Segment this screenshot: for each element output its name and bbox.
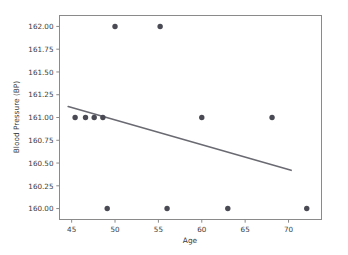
y-tick-label: 161.25	[28, 90, 53, 99]
data-point-marker	[100, 115, 105, 120]
y-tick-label: 161.50	[28, 68, 54, 77]
data-point-marker	[199, 115, 204, 120]
x-tick-label: 65	[241, 225, 250, 234]
y-tick-label: 160.25	[28, 182, 53, 191]
x-axis-label: Age	[183, 236, 198, 245]
data-point-marker	[269, 115, 274, 120]
data-point-marker	[304, 206, 309, 211]
data-point-marker	[112, 24, 117, 29]
y-tick-label: 160.50	[28, 159, 54, 168]
x-tick-label: 60	[197, 225, 207, 234]
x-tick-label: 45	[67, 225, 76, 234]
data-point-marker	[225, 206, 230, 211]
y-tick-label: 161.75	[28, 45, 53, 54]
y-tick-label: 162.00	[28, 22, 54, 31]
data-point-marker	[105, 206, 110, 211]
x-tick-label: 55	[154, 225, 163, 234]
data-point-marker	[92, 115, 97, 120]
y-tick-label: 161.00	[28, 113, 54, 122]
scatter-plot: 455055606570 160.00160.25160.50160.75161…	[0, 0, 348, 255]
chart-figure: 455055606570 160.00160.25160.50160.75161…	[0, 0, 348, 255]
y-tick-label: 160.00	[28, 204, 54, 213]
x-tick-label: 70	[284, 225, 294, 234]
figure-background	[0, 0, 348, 255]
data-point-marker	[157, 24, 162, 29]
x-tick-label: 50	[110, 225, 120, 234]
data-point-marker	[72, 115, 77, 120]
data-point-marker	[83, 115, 88, 120]
data-point-marker	[164, 206, 169, 211]
y-axis-label: Blood Pressure (BP)	[12, 81, 21, 154]
y-tick-label: 160.75	[28, 136, 53, 145]
